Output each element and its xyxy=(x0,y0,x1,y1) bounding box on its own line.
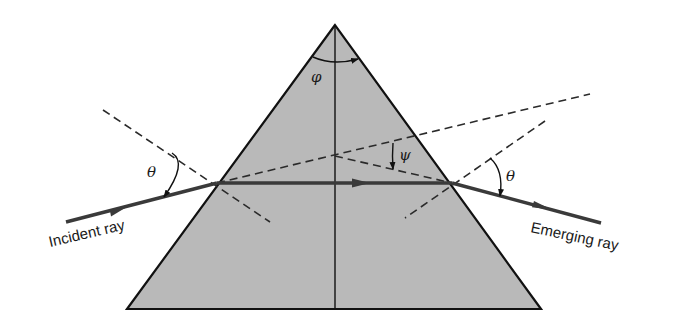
phi-label: φ xyxy=(311,68,322,86)
psi-label: ψ xyxy=(399,146,411,164)
theta-right-arc xyxy=(490,158,501,196)
emerging-ray-label: Emerging ray xyxy=(529,218,620,253)
incident-ray-label: Incident ray xyxy=(47,216,127,250)
psi-arc xyxy=(393,143,394,169)
theta-left-arc xyxy=(164,153,178,197)
theta-right-label: θ xyxy=(506,167,515,185)
prism-refraction-diagram: θ θ φ ψ Incident ray Emerging ray xyxy=(0,0,679,329)
emerging-ray-arrow-icon xyxy=(532,201,552,210)
theta-left-label: θ xyxy=(147,163,156,181)
